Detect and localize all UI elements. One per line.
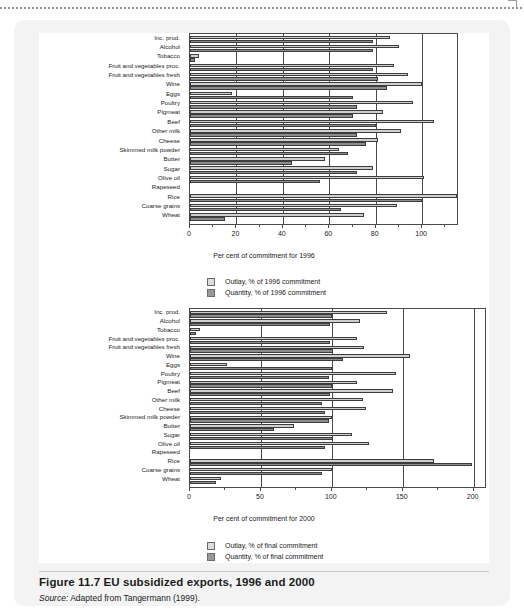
x-tick-major (473, 488, 474, 491)
category-label: Inc. prod. (154, 35, 180, 41)
bar-quantity (190, 40, 373, 44)
category-label: Skimmed milk powder (119, 414, 180, 420)
bar-outlay (190, 346, 364, 349)
bar-quantity (190, 411, 325, 414)
bar-outlay (190, 138, 378, 142)
category-label: Fruit and vegetables fresh (108, 344, 180, 350)
x-tick-label: 20 (232, 230, 240, 237)
category-label: Butter (163, 423, 180, 429)
bar-quantity (190, 446, 325, 449)
x-tick-minor (398, 225, 399, 227)
bar-outlay (190, 129, 401, 133)
x-tick-label: 100 (415, 230, 427, 237)
x-tick-label: 0 (187, 493, 191, 500)
category-label: Inc. prod. (154, 309, 180, 315)
x-tick-major (282, 225, 283, 228)
category-label: Rapeseed (152, 449, 180, 455)
category-label: Rice (168, 194, 180, 200)
bar-outlay (190, 363, 227, 366)
category-label: Eggs (166, 362, 180, 368)
bar-outlay (190, 354, 410, 357)
page-corner-mark (508, 0, 517, 7)
x-tick-label: 50 (256, 493, 264, 500)
bar-outlay (190, 319, 360, 322)
category-label: Butter (163, 156, 180, 162)
category-label: Cheese (159, 137, 180, 143)
category-label: Beef (167, 388, 180, 394)
category-label: Olive oil (158, 441, 180, 447)
chart-2000: Inc. prod.AlcoholTobaccoFruit and vegeta… (39, 308, 489, 546)
x-tick-major (421, 225, 422, 228)
bar-outlay (190, 213, 364, 217)
bar-quantity (190, 77, 378, 81)
bar-outlay (190, 328, 200, 331)
x-tick-major (260, 488, 261, 491)
legend-swatch-quantity (207, 553, 215, 561)
bar-outlay (190, 459, 434, 462)
bar-quantity (190, 314, 332, 317)
figure-card: Inc. prod.AlcoholTobaccoFruit and vegeta… (14, 20, 510, 606)
category-label: Wine (166, 81, 180, 87)
bar-quantity (190, 428, 274, 431)
category-label: Poultry (161, 100, 180, 106)
x-tick-minor (352, 225, 353, 227)
bar-outlay (190, 176, 424, 180)
category-label: Other milk (152, 128, 180, 134)
bar-quantity (190, 199, 422, 203)
figure-page: Inc. prod.AlcoholTobaccoFruit and vegeta… (0, 0, 524, 612)
bar-outlay (190, 407, 366, 410)
bar-quantity (190, 463, 472, 466)
bar-quantity (190, 341, 330, 344)
x-tick-label: 200 (467, 493, 479, 500)
bar-quantity (190, 58, 195, 62)
bar-quantity (190, 133, 357, 137)
x-tick-major (189, 225, 190, 228)
category-label: Coarse grains (141, 467, 180, 473)
bar-outlay (190, 442, 369, 445)
x-tick-minor (295, 488, 296, 490)
bar-outlay (190, 92, 232, 96)
category-label: Fruit and vegetables proc. (108, 63, 180, 69)
bar-quantity (190, 96, 353, 100)
bar-quantity (190, 171, 357, 175)
bar-outlay (190, 311, 387, 314)
category-label: Tobacco (157, 53, 180, 59)
bar-quantity (190, 376, 329, 379)
chart-1996: Inc. prod.AlcoholTobaccoFruit and vegeta… (39, 33, 489, 283)
x-axis-title: Per cent of commitment for 2000 (39, 515, 489, 522)
bar-outlay (190, 36, 390, 40)
bar-quantity (190, 393, 330, 396)
x-tick-major (189, 488, 190, 491)
chart-2000-plot-area: Inc. prod.AlcoholTobaccoFruit and vegeta… (39, 308, 489, 546)
bar-outlay (190, 45, 399, 49)
category-label: Olive oil (158, 175, 180, 181)
category-label: Sugar (163, 165, 180, 171)
category-label: Sugar (163, 432, 180, 438)
category-label: Fruit and vegetables fresh (108, 72, 180, 78)
caption-divider (39, 571, 489, 572)
bar-quantity (190, 114, 353, 118)
bar-outlay (190, 416, 332, 419)
x-tick-major (331, 488, 332, 491)
category-label: Rapeseed (152, 184, 180, 190)
bar-quantity (190, 472, 322, 475)
charts-container: Inc. prod.AlcoholTobaccoFruit and vegeta… (39, 33, 489, 563)
category-label: Skimmed milk powder (119, 147, 180, 153)
bar-quantity (190, 208, 341, 212)
category-label: Rice (168, 458, 180, 464)
bar-quantity (190, 332, 196, 335)
bar-quantity (190, 358, 343, 361)
bar-quantity (190, 68, 373, 72)
x-tick-minor (366, 488, 367, 490)
bar-outlay (190, 337, 357, 340)
plot-frame (189, 33, 458, 225)
x-tick-minor (212, 225, 213, 227)
legend-swatch-outlay (207, 278, 215, 286)
bar-outlay (190, 101, 413, 105)
bar-quantity (190, 152, 348, 156)
category-label: Alcohol (160, 44, 180, 50)
x-tick-minor (259, 225, 260, 227)
x-tick-minor (305, 225, 306, 227)
gridline (474, 309, 475, 487)
figure-source: Source: Adapted from Tangermann (1999). (39, 593, 499, 603)
